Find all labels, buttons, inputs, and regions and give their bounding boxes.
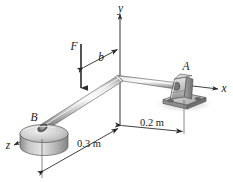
- force-label-f: F: [69, 40, 78, 52]
- dimension-label-03m: 0.3 m: [77, 138, 101, 149]
- axis-label-x: x: [220, 82, 227, 94]
- dimension-label-b: b: [98, 51, 104, 63]
- bearing-a-pillow-block: [163, 74, 206, 109]
- shaft-segment-right: [118, 76, 179, 90]
- bearing-bolt-hole-right: [195, 97, 201, 100]
- axis-label-z: z: [5, 139, 11, 151]
- bearing-bolt-hole-left: [168, 99, 174, 102]
- statics-figure: y x z A B F b 0.3 m 0.2 m: [0, 0, 233, 182]
- bearing-b-collar: [20, 123, 68, 156]
- dimension-label-02m: 0.2 m: [140, 117, 164, 128]
- bearing-a-label: A: [181, 60, 190, 72]
- bearing-b-label: B: [30, 111, 37, 123]
- figure-canvas: y x z A B F b 0.3 m 0.2 m: [0, 0, 233, 182]
- axis-label-y: y: [117, 2, 124, 15]
